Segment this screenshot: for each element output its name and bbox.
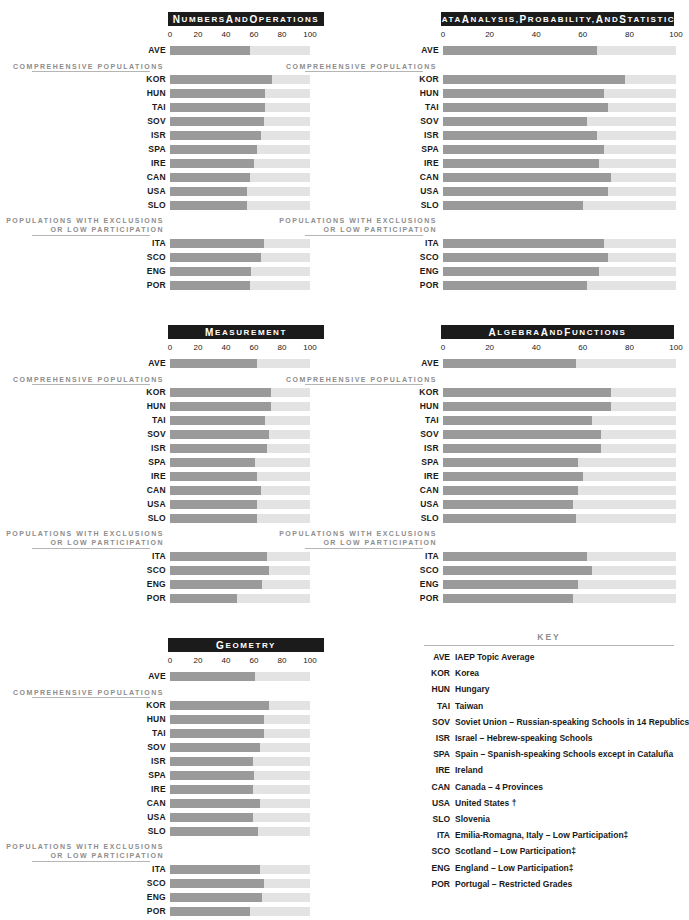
bar-fill-usa <box>443 500 573 509</box>
bar-label-por: POR <box>147 593 166 603</box>
key-legend-panel: KEY AVEIAEP Topic AverageKORKoreaHUNHung… <box>424 632 674 897</box>
key-row: SLOSlovenia <box>424 814 674 827</box>
bar-row: IRE <box>443 472 676 481</box>
bar-row: ISR <box>443 444 676 453</box>
bar-label-spa: SPA <box>148 144 166 154</box>
bar-row: SLO <box>443 201 676 210</box>
bar-row: SLO <box>170 827 310 836</box>
key-code-sco: SCO <box>424 846 450 856</box>
bar-label-tai: TAI <box>152 728 166 738</box>
bar-row: SPA <box>170 458 310 467</box>
bar-row: CAN <box>170 799 310 808</box>
group-label-comprehensive-populations: COMPREHENSIVE POPULATIONS <box>247 375 437 384</box>
chart-numbers-and-operations: NUMBERS AND OPERATIONS020406080100AVEKOR… <box>168 12 324 302</box>
bar-fill-ire <box>170 159 254 168</box>
bar-label-ita: ITA <box>425 551 439 561</box>
key-row: SCOScotland – Low Participation‡ <box>424 846 674 859</box>
bar-fill-tai <box>170 416 265 425</box>
bar-fill-sov <box>170 430 269 439</box>
bar-fill-spa <box>170 145 257 154</box>
x-tick-80: 80 <box>278 343 287 352</box>
bar-row: SLO <box>170 201 310 210</box>
x-tick-0: 0 <box>441 343 445 352</box>
bar-fill-hun <box>443 402 611 411</box>
x-tick-40: 40 <box>222 30 231 39</box>
group-rule-comprehensive <box>32 697 150 698</box>
bar-label-can: CAN <box>420 485 439 495</box>
bar-fill-por <box>443 594 573 603</box>
bar-label-slo: SLO <box>148 513 166 523</box>
key-code-isr: ISR <box>424 733 450 743</box>
x-tick-0: 0 <box>168 343 172 352</box>
bar-row: ENG <box>443 267 676 276</box>
bar-label-ave: AVE <box>148 45 166 55</box>
bar-fill-eng <box>443 580 578 589</box>
bar-label-ita: ITA <box>152 864 166 874</box>
bar-label-sco: SCO <box>147 252 166 262</box>
key-title-rule <box>424 645 674 646</box>
key-code-slo: SLO <box>424 814 450 824</box>
key-description-slo: Slovenia <box>455 814 490 824</box>
bar-row: ITA <box>170 865 310 874</box>
x-tick-40: 40 <box>222 656 231 665</box>
bar-fill-spa <box>170 458 255 467</box>
bar-fill-tai <box>443 103 608 112</box>
key-description-hun: Hungary <box>455 684 489 694</box>
bar-fill-spa <box>170 771 254 780</box>
bar-fill-sov <box>443 430 601 439</box>
x-axis-tick-labels: 020406080100 <box>170 30 310 43</box>
bar-row: CAN <box>443 173 676 182</box>
bar-row: CAN <box>443 486 676 495</box>
bar-label-isr: ISR <box>424 130 439 140</box>
bar-fill-ita <box>170 239 264 248</box>
bar-row: SOV <box>170 743 310 752</box>
bar-label-spa: SPA <box>421 457 439 467</box>
bar-fill-slo <box>443 514 576 523</box>
key-code-spa: SPA <box>424 749 450 759</box>
bar-fill-hun <box>443 89 604 98</box>
bar-row: POR <box>443 281 676 290</box>
key-title: KEY <box>424 632 674 642</box>
key-description-ave: IAEP Topic Average <box>455 652 534 662</box>
x-tick-40: 40 <box>222 343 231 352</box>
bar-fill-eng <box>443 267 599 276</box>
bar-fill-sco <box>443 566 592 575</box>
key-row: AVEIAEP Topic Average <box>424 652 674 665</box>
bar-fill-sco <box>443 253 608 262</box>
bar-row: KOR <box>170 701 310 710</box>
bar-label-eng: ENG <box>147 892 166 902</box>
bar-fill-tai <box>170 103 265 112</box>
bar-label-por: POR <box>147 280 166 290</box>
group-rule-comprehensive <box>305 384 423 385</box>
bar-label-sco: SCO <box>147 878 166 888</box>
bar-label-hun: HUN <box>420 401 439 411</box>
key-code-hun: HUN <box>424 684 450 694</box>
bar-row: SCO <box>170 566 310 575</box>
key-description-sco: Scotland – Low Participation‡ <box>455 846 576 856</box>
key-description-isr: Israel – Hebrew-speaking Schools <box>455 733 592 743</box>
bar-fill-tai <box>443 416 592 425</box>
x-tick-20: 20 <box>485 30 494 39</box>
bar-label-sco: SCO <box>420 565 439 575</box>
bar-row: KOR <box>443 75 676 84</box>
bar-label-isr: ISR <box>424 443 439 453</box>
bar-row: SPA <box>443 458 676 467</box>
bar-row-average: AVE <box>443 46 676 55</box>
plot-area: AVEKORHUNTAISOVISRSPAIRECANUSASLOITASCOE… <box>443 359 676 619</box>
bar-row: IRE <box>170 472 310 481</box>
chart-title-banner: ALGEBRA AND FUNCTIONS <box>441 325 674 339</box>
bar-fill-ave <box>443 46 597 55</box>
key-row: TAITaiwan <box>424 701 674 714</box>
bar-row: ENG <box>170 580 310 589</box>
key-row: SPASpain – Spanish-speaking Schools exce… <box>424 749 674 762</box>
bar-label-ave: AVE <box>421 358 439 368</box>
bar-row: ISR <box>170 757 310 766</box>
bar-fill-sco <box>170 879 264 888</box>
plot-area: AVEKORHUNTAISOVISRSPAIRECANUSASLOITASCOE… <box>443 46 676 306</box>
bar-row: SOV <box>443 430 676 439</box>
bar-label-spa: SPA <box>148 457 166 467</box>
bar-fill-ire <box>170 785 253 794</box>
key-description-spa: Spain – Spanish-speaking Schools except … <box>455 749 673 759</box>
x-tick-0: 0 <box>168 30 172 39</box>
bar-label-slo: SLO <box>148 826 166 836</box>
